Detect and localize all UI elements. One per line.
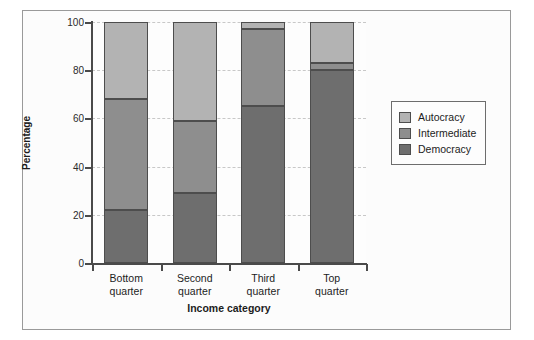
legend-label: Democracy bbox=[418, 143, 471, 155]
legend-item-autocracy[interactable]: Autocracy bbox=[399, 109, 476, 125]
bar-group[interactable] bbox=[241, 22, 285, 263]
y-tick-60 bbox=[85, 118, 92, 120]
bar-group[interactable] bbox=[173, 22, 217, 263]
x-tick-1 bbox=[161, 264, 163, 271]
chart-legend: AutocracyIntermediateDemocracy bbox=[391, 101, 486, 165]
x-category-label-line: quarter bbox=[289, 285, 375, 298]
y-tick-80 bbox=[85, 70, 92, 72]
legend-swatch-icon bbox=[399, 128, 411, 139]
legend-label: Intermediate bbox=[418, 127, 476, 139]
y-tick-40 bbox=[85, 167, 92, 169]
legend-swatch-icon bbox=[399, 144, 411, 155]
x-tick-4 bbox=[366, 264, 368, 271]
y-axis-title: Percentage bbox=[21, 116, 32, 170]
bar-segment-intermediate[interactable] bbox=[241, 29, 285, 106]
y-axis-line bbox=[91, 21, 93, 264]
bar-segment-democracy[interactable] bbox=[241, 106, 285, 263]
x-tick-3 bbox=[298, 264, 300, 271]
legend-item-intermediate[interactable]: Intermediate bbox=[399, 125, 476, 141]
legend-item-democracy[interactable]: Democracy bbox=[399, 141, 476, 157]
bar-segment-autocracy[interactable] bbox=[173, 22, 217, 121]
x-tick-2 bbox=[229, 264, 231, 271]
legend-label: Autocracy bbox=[418, 111, 465, 123]
plot-area bbox=[92, 22, 366, 263]
x-category-label: Topquarter bbox=[289, 272, 375, 298]
bar-segment-intermediate[interactable] bbox=[310, 63, 354, 70]
bar-segment-democracy[interactable] bbox=[173, 193, 217, 263]
legend-swatch-icon bbox=[399, 112, 411, 123]
bar-segment-democracy[interactable] bbox=[310, 70, 354, 263]
bar-segment-autocracy[interactable] bbox=[310, 22, 354, 63]
y-tick-label-100: 100 bbox=[44, 17, 84, 28]
bar-segment-autocracy[interactable] bbox=[241, 22, 285, 29]
x-category-label-line: Top bbox=[289, 272, 375, 285]
bar-group[interactable] bbox=[310, 22, 354, 263]
y-tick-20 bbox=[85, 215, 92, 217]
bar-segment-intermediate[interactable] bbox=[173, 121, 217, 193]
y-tick-label-0: 0 bbox=[44, 258, 84, 269]
bar-segment-democracy[interactable] bbox=[104, 210, 148, 263]
y-tick-0 bbox=[85, 263, 92, 265]
y-tick-label-20: 20 bbox=[44, 209, 84, 220]
y-tick-label-60: 60 bbox=[44, 113, 84, 124]
y-tick-label-40: 40 bbox=[44, 161, 84, 172]
bar-segment-autocracy[interactable] bbox=[104, 22, 148, 99]
y-tick-label-80: 80 bbox=[44, 65, 84, 76]
bar-group[interactable] bbox=[104, 22, 148, 263]
figure: Percentage 020406080100 BottomquarterSec… bbox=[0, 0, 534, 340]
y-tick-100 bbox=[85, 22, 92, 24]
bar-segment-intermediate[interactable] bbox=[104, 99, 148, 210]
x-axis-title: Income category bbox=[92, 302, 366, 314]
x-tick-0 bbox=[92, 264, 94, 271]
